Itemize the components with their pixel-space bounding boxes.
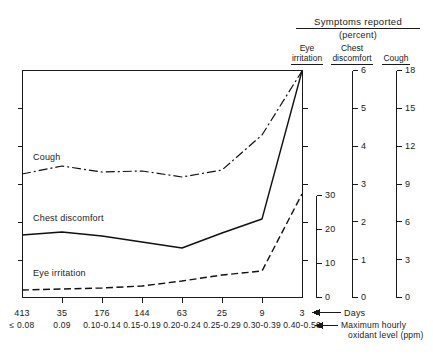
chart-figure: Symptoms reported (percent) Eye irritati… <box>0 0 433 357</box>
x-tick-oxidant-1: 0.09 <box>42 321 82 331</box>
days-arrow-group <box>0 0 433 357</box>
days-arrow-head <box>313 310 319 315</box>
x-tick-oxidant-5: 0.25-0.29 <box>201 321 243 331</box>
days-axis-label: Days <box>344 308 365 318</box>
x-tick-oxidant-7: 0.40-0.50 <box>281 321 323 331</box>
x-tick-oxidant-3: 0.15-0.19 <box>121 321 163 331</box>
x-tick-oxidant-0: ≤ 0.08 <box>2 321 42 331</box>
x-tick-oxidant-2: 0.10-0.14 <box>81 321 123 331</box>
x-tick-oxidant-6: 0.30-0.39 <box>241 321 283 331</box>
x-tick-oxidant-4: 0.20-0.24 <box>161 321 203 331</box>
oxidant-axis-label-line2: oxidant level (ppm) <box>348 331 424 341</box>
